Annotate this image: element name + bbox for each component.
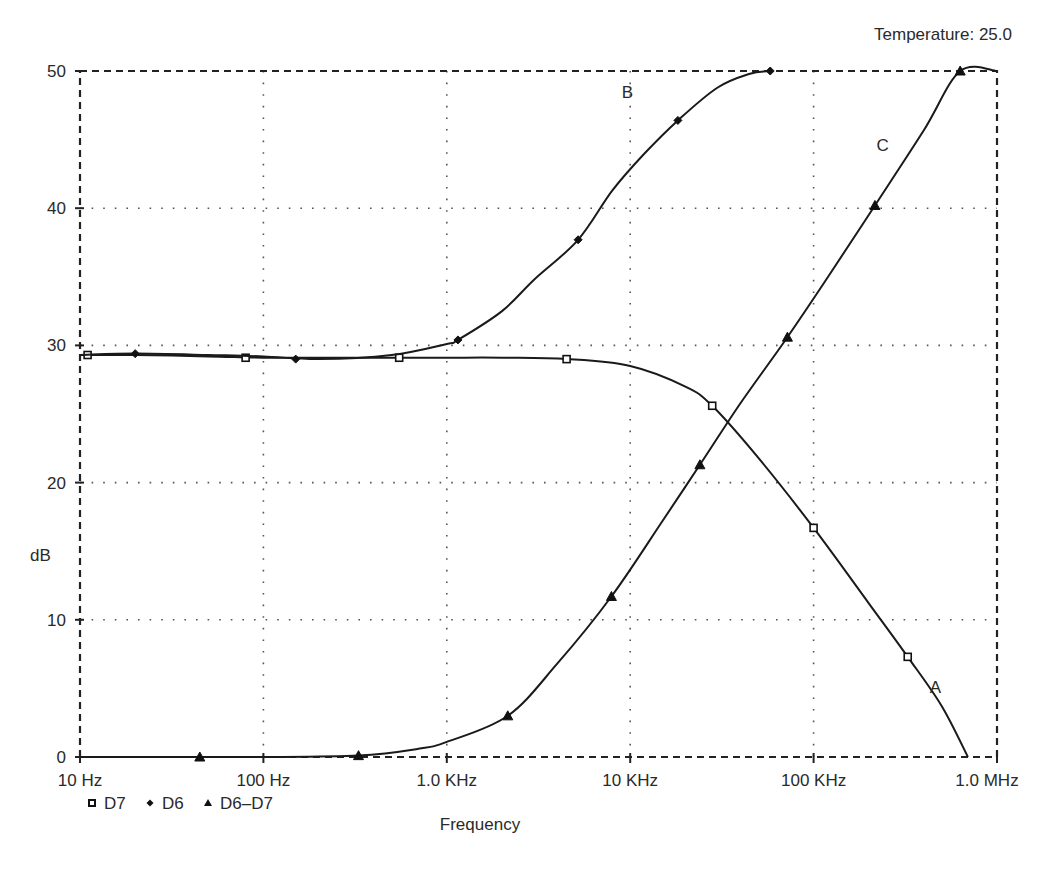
series-b — [80, 67, 774, 363]
curve-c-line — [80, 67, 997, 757]
y-tick-label: 30 — [47, 336, 66, 355]
triangle-marker-icon — [204, 799, 212, 806]
legend-item-d6-d7: D6–D7 — [204, 794, 273, 813]
diamond-marker-icon — [131, 350, 139, 358]
x-tick-label: 100 Hz — [236, 771, 290, 790]
curve-a-line — [80, 355, 968, 757]
series-a — [80, 352, 968, 757]
curve-label-a: A — [930, 678, 942, 697]
x-tick-label: 10 KHz — [602, 771, 658, 790]
data-series — [80, 66, 997, 761]
x-tick-label: 10 Hz — [58, 771, 102, 790]
plot-border — [80, 71, 997, 757]
x-axis-label: Frequency — [440, 815, 521, 834]
y-tick-label: 0 — [57, 748, 66, 767]
y-tick-label: 40 — [47, 199, 66, 218]
square-marker-icon — [709, 402, 716, 409]
y-tick-label: 20 — [47, 474, 66, 493]
legend-item-d7: D7 — [89, 794, 126, 813]
legend-label: D7 — [104, 794, 126, 813]
square-marker-icon — [904, 653, 911, 660]
y-axis-ticks: 01020304050 — [47, 62, 84, 767]
square-marker-icon — [810, 524, 817, 531]
square-marker-icon — [563, 356, 570, 363]
curve-b-line — [80, 71, 770, 359]
x-tick-label: 100 KHz — [781, 771, 846, 790]
x-tick-label: 1.0 KHz — [417, 771, 477, 790]
x-tick-label: 1.0 MHz — [955, 771, 1018, 790]
diamond-marker-icon — [147, 800, 154, 807]
grid-lines — [80, 71, 997, 757]
diamond-marker-icon — [766, 67, 774, 75]
legend-item-d6: D6 — [147, 794, 184, 813]
legend: D7D6D6–D7 — [89, 794, 273, 813]
y-axis-label: dB — [30, 546, 51, 565]
temperature-label: Temperature: 25.0 — [874, 25, 1012, 44]
series-c — [80, 66, 997, 761]
legend-label: D6–D7 — [220, 794, 273, 813]
curve-label-c: C — [876, 136, 888, 155]
square-marker-icon — [89, 800, 95, 806]
y-tick-label: 50 — [47, 62, 66, 81]
diamond-marker-icon — [292, 355, 300, 363]
frequency-response-chart: Temperature: 25.0 01020304050 10 Hz100 H… — [0, 0, 1056, 869]
legend-label: D6 — [162, 794, 184, 813]
curve-label-b: B — [622, 83, 633, 102]
y-tick-label: 10 — [47, 611, 66, 630]
